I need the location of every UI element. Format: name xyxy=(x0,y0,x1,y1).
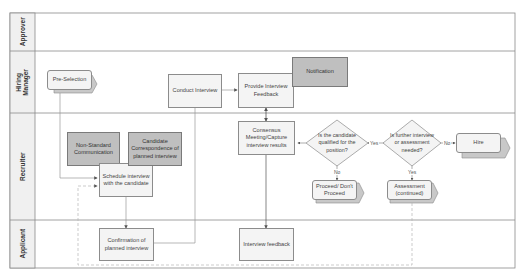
node-hire[interactable]: Hire xyxy=(456,133,501,153)
node-notification[interactable]: Notification xyxy=(292,57,348,87)
edge-label-yes: Yes xyxy=(407,169,417,175)
lane-label-approver: Approver xyxy=(10,13,35,51)
node-consensus-meeting[interactable]: Consensus Meeting/Capture interview resu… xyxy=(238,121,295,155)
lane-label-hiring-manager: HiringManager xyxy=(10,51,35,113)
node-proceed[interactable]: Proceed/ Don't Proceed xyxy=(312,180,357,200)
lane-approver-text: Approver xyxy=(19,18,26,47)
lane-recruiter-text: Recruiter xyxy=(19,152,26,181)
edge-label-yes: Yes xyxy=(369,140,379,146)
lane-label-recruiter: Recruiter xyxy=(10,113,35,220)
node-confirmation[interactable]: Confirmation of planned interview xyxy=(99,228,154,261)
node-candidate-correspondence[interactable]: Candidate Correspondence of planned inte… xyxy=(128,132,182,166)
lane-hiring-manager-text: HiringManager xyxy=(15,69,30,96)
lane-label-applicant: Applicant xyxy=(10,220,35,268)
node-non-standard-communication[interactable]: Non-Standard Communication xyxy=(67,132,120,166)
decision-further-text[interactable]: Is further interview or assessment neede… xyxy=(387,128,437,158)
edge-label-no: No xyxy=(333,169,341,175)
node-provide-interview-feedback[interactable]: Provide Interview Feedback xyxy=(238,73,294,108)
node-schedule-interview[interactable]: Schedule interview with the candidate xyxy=(99,163,153,197)
edge-label-no: No xyxy=(443,140,451,146)
node-assessment[interactable]: Assessment (continued) xyxy=(387,180,432,200)
lane-applicant-text: Applicant xyxy=(19,229,26,259)
node-pre-selection[interactable]: Pre-Selection xyxy=(47,70,92,90)
decision-qualified-text[interactable]: Is the candidate qualified for the posit… xyxy=(312,128,362,158)
node-conduct-interview[interactable]: Conduct Interview xyxy=(168,74,222,108)
node-interview-feedback[interactable]: Interview feedback xyxy=(239,228,294,261)
